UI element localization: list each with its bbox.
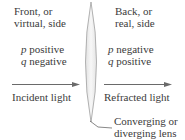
p-variable: p (21, 43, 27, 55)
p-sign: positive (29, 43, 64, 55)
back-q-sign: q positive (108, 55, 154, 67)
back-sign-convention: p negative q positive (108, 43, 154, 67)
q-variable: q (108, 55, 114, 67)
refracted-arrow (104, 82, 172, 87)
p-sign: negative (116, 43, 153, 55)
q-variable: q (21, 55, 27, 67)
lens-label-line2: diverging lens (114, 127, 178, 139)
front-side-line2: virtual, side (14, 17, 66, 29)
back-side-label: Back, or real, side (115, 5, 155, 29)
front-p-sign: p positive (21, 43, 67, 55)
lens-leader-line (90, 121, 112, 128)
incident-arrow (12, 82, 80, 87)
q-sign: positive (116, 55, 151, 67)
front-sign-convention: p positive q negative (21, 43, 67, 67)
back-p-sign: p negative (108, 43, 154, 55)
refracted-light-label: Refracted light (104, 91, 170, 103)
lens-label: Converging or diverging lens (114, 115, 178, 139)
front-q-sign: q negative (21, 55, 67, 67)
incident-light-label: Incident light (12, 91, 71, 103)
front-side-label: Front, or virtual, side (14, 5, 66, 29)
lens-label-line1: Converging or (114, 115, 178, 127)
lens-shape (86, 2, 97, 122)
back-side-line2: real, side (115, 17, 155, 29)
front-side-line1: Front, or (14, 5, 66, 17)
p-variable: p (108, 43, 114, 55)
back-side-line1: Back, or (115, 5, 155, 17)
q-sign: negative (29, 55, 66, 67)
